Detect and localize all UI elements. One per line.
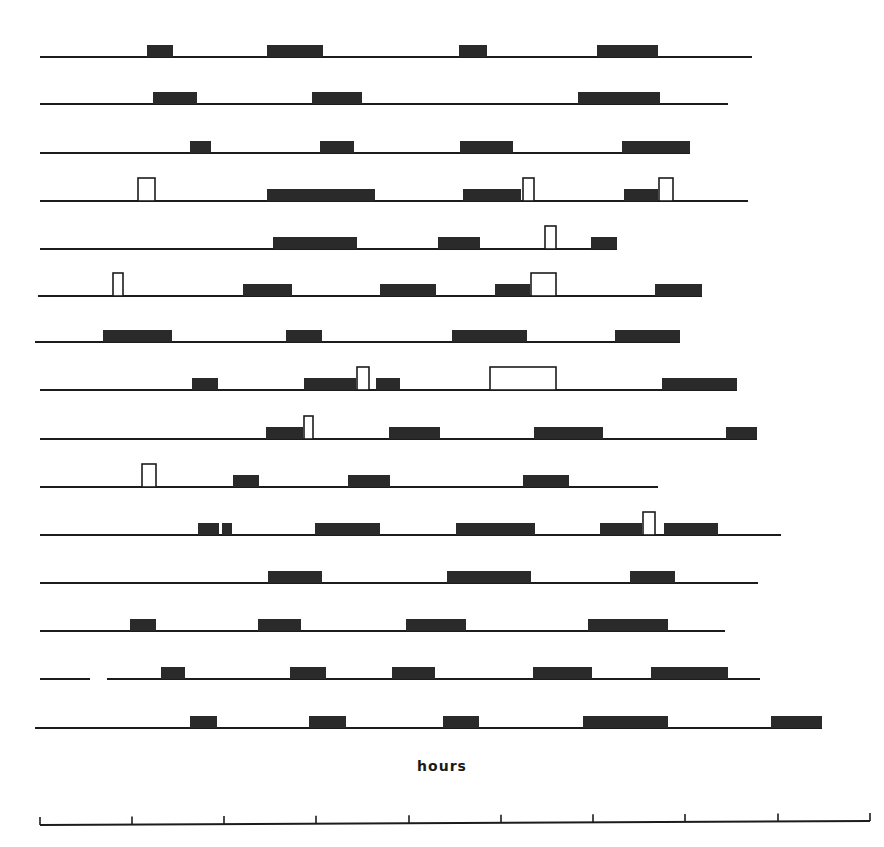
filled-block xyxy=(267,45,323,57)
filled-block xyxy=(534,427,603,439)
open-block xyxy=(643,512,655,535)
filled-block xyxy=(103,330,172,342)
record-row xyxy=(38,273,702,296)
filled-block xyxy=(651,667,728,679)
rows-group xyxy=(35,45,822,728)
filled-block xyxy=(304,378,356,390)
filled-block xyxy=(376,378,400,390)
open-block xyxy=(523,178,534,201)
filled-block xyxy=(452,330,527,342)
filled-block xyxy=(309,716,346,728)
filled-block xyxy=(655,284,702,296)
filled-block xyxy=(662,378,737,390)
filled-block xyxy=(233,475,259,487)
filled-block xyxy=(258,619,301,631)
filled-block xyxy=(392,667,435,679)
filled-block xyxy=(130,619,156,631)
filled-block xyxy=(495,284,530,296)
filled-block xyxy=(591,237,617,249)
record-row xyxy=(40,571,758,583)
filled-block xyxy=(406,619,466,631)
filled-block xyxy=(192,378,218,390)
record-row xyxy=(40,92,728,104)
filled-block xyxy=(268,571,322,583)
open-block xyxy=(142,464,156,487)
filled-block xyxy=(190,141,211,153)
open-block xyxy=(490,367,556,390)
filled-block xyxy=(267,189,375,201)
filled-block xyxy=(320,141,354,153)
open-block xyxy=(138,178,155,201)
time-axis xyxy=(40,813,870,825)
filled-block xyxy=(664,523,718,535)
filled-block xyxy=(161,667,185,679)
filled-block xyxy=(459,45,487,57)
filled-block xyxy=(600,523,642,535)
record-row xyxy=(40,619,725,631)
filled-block xyxy=(198,523,219,535)
filled-block xyxy=(266,427,303,439)
filled-block xyxy=(456,523,535,535)
filled-block xyxy=(622,141,690,153)
record-row xyxy=(40,141,690,153)
open-block xyxy=(545,226,556,249)
filled-block xyxy=(597,45,658,57)
filled-block xyxy=(312,92,362,104)
filled-block xyxy=(153,92,197,104)
record-row xyxy=(35,716,822,728)
filled-block xyxy=(523,475,569,487)
axis-line xyxy=(40,821,870,825)
filled-block xyxy=(222,523,232,535)
filled-block xyxy=(348,475,390,487)
filled-block xyxy=(190,716,217,728)
filled-block xyxy=(583,716,668,728)
open-block xyxy=(531,273,556,296)
filled-block xyxy=(389,427,440,439)
record-row xyxy=(40,367,737,390)
filled-block xyxy=(588,619,668,631)
record-row xyxy=(35,330,680,342)
filled-block xyxy=(624,189,658,201)
filled-block xyxy=(578,92,660,104)
record-row xyxy=(40,226,617,249)
record-row xyxy=(40,512,781,535)
filled-block xyxy=(447,571,531,583)
filled-block xyxy=(315,523,380,535)
filled-block xyxy=(286,330,322,342)
filled-block xyxy=(243,284,292,296)
filled-block xyxy=(615,330,680,342)
filled-block xyxy=(630,571,675,583)
open-block xyxy=(304,416,313,439)
record-row xyxy=(40,45,752,57)
filled-block xyxy=(273,237,357,249)
filled-block xyxy=(463,189,521,201)
filled-block xyxy=(147,45,173,57)
filled-block xyxy=(443,716,479,728)
record-row xyxy=(40,416,757,439)
filled-block xyxy=(771,716,822,728)
record-row xyxy=(40,464,658,487)
filled-block xyxy=(438,237,480,249)
filled-block xyxy=(533,667,592,679)
filled-block xyxy=(290,667,326,679)
filled-block xyxy=(380,284,436,296)
filled-block xyxy=(460,141,513,153)
record-row xyxy=(40,178,748,201)
filled-block xyxy=(726,427,757,439)
raster-chart xyxy=(0,0,884,847)
open-block xyxy=(357,367,369,390)
x-axis-label: hours xyxy=(0,758,884,774)
open-block xyxy=(113,273,123,296)
open-block xyxy=(659,178,673,201)
record-row xyxy=(40,667,760,679)
